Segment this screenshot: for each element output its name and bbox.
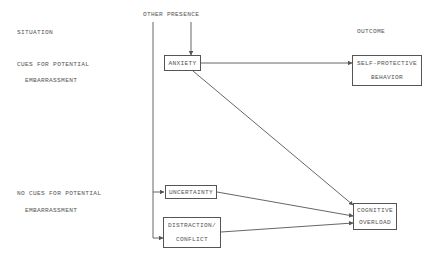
situation-cues-line1: CUES FOR POTENTIAL (17, 61, 89, 68)
situation-no-cues-line2: EMBARRASSMENT (25, 207, 77, 214)
node-self-protective-line1: SELF-PROTECTIVE (357, 60, 417, 67)
node-cognitive-overload: COGNITIVE OVERLOAD (353, 203, 397, 230)
situation-header: SITUATION (17, 29, 53, 36)
node-anxiety-label: ANXIETY (168, 60, 196, 67)
node-cognitive-overload-line2: OVERLOAD (359, 219, 391, 226)
node-distraction-line1: DISTRACTION/ (168, 222, 216, 229)
node-distraction-line2: CONFLICT (176, 236, 208, 243)
edge-anxiety-to-cognitive-overload (193, 71, 353, 205)
node-uncertainty-label: UNCERTAINTY (169, 189, 213, 196)
node-self-protective-line2: BEHAVIOR (371, 74, 403, 81)
situation-no-cues-line1: NO CUES FOR POTENTIAL (17, 190, 101, 197)
edge-distraction-to-cognitive-overload (221, 223, 353, 232)
node-distraction-conflict: DISTRACTION/ CONFLICT (163, 217, 221, 248)
node-uncertainty: UNCERTAINTY (165, 185, 217, 199)
outcome-header: OUTCOME (357, 28, 385, 35)
node-cognitive-overload-line1: COGNITIVE (357, 207, 393, 214)
situation-cues-line2: EMBARRASSMENT (25, 77, 77, 84)
other-presence-label: OTHER PRESENCE (143, 11, 199, 18)
node-anxiety: ANXIETY (164, 55, 201, 71)
node-self-protective-behavior: SELF-PROTECTIVE BEHAVIOR (352, 55, 422, 86)
edge-uncertainty-to-cognitive-overload (217, 192, 353, 216)
